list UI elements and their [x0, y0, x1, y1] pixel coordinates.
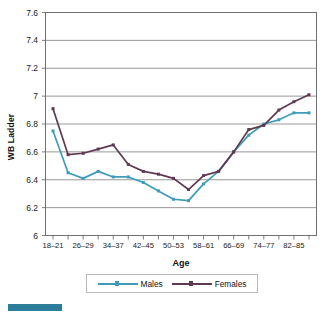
- legend-swatch-males: [98, 279, 138, 288]
- data-point-marker: [307, 111, 310, 114]
- legend-item-males: Males: [98, 279, 163, 289]
- data-point-marker: [142, 170, 145, 173]
- data-point-marker: [142, 181, 145, 184]
- legend-label-females: Females: [215, 279, 247, 289]
- series-line-males: [53, 113, 309, 201]
- data-series: [52, 93, 311, 202]
- data-point-marker: [52, 129, 55, 132]
- data-point-marker: [82, 152, 85, 155]
- x-tick-label: 42–45: [133, 241, 154, 250]
- data-point-marker: [202, 182, 205, 185]
- data-point-marker: [202, 174, 205, 177]
- data-point-marker: [262, 124, 265, 127]
- chart-figure: WB Ladder 66.26.46.66.877.27.47.6 18–212…: [0, 0, 328, 313]
- data-point-marker: [82, 177, 85, 180]
- data-point-marker: [157, 173, 160, 176]
- x-tick-label: 66–69: [223, 241, 244, 250]
- data-point-marker: [307, 93, 310, 96]
- data-point-marker: [127, 175, 130, 178]
- legend-item-females: Females: [172, 279, 247, 289]
- x-tick-label: 58–61: [193, 241, 214, 250]
- data-point-marker: [172, 177, 175, 180]
- data-point-marker: [292, 100, 295, 103]
- x-tick-label: 34–37: [103, 241, 124, 250]
- data-point-marker: [187, 199, 190, 202]
- data-point-marker: [292, 111, 295, 114]
- data-point-marker: [157, 189, 160, 192]
- data-point-marker: [247, 134, 250, 137]
- data-point-marker: [277, 109, 280, 112]
- x-tick-label: 82–85: [283, 241, 304, 250]
- legend-swatch-females: [172, 279, 212, 288]
- data-point-marker: [172, 198, 175, 201]
- x-tick-label: 50–53: [163, 241, 184, 250]
- data-point-marker: [67, 153, 70, 156]
- data-point-marker: [97, 170, 100, 173]
- x-tick-label: 18–21: [42, 241, 63, 250]
- data-point-marker: [247, 128, 250, 131]
- data-point-marker: [127, 163, 130, 166]
- data-point-marker: [67, 171, 70, 174]
- x-axis-ticks: [53, 236, 309, 240]
- legend-label-males: Males: [141, 279, 163, 289]
- decorative-corner-bar: [8, 304, 62, 311]
- data-point-marker: [232, 150, 235, 153]
- data-point-marker: [97, 148, 100, 151]
- x-tick-label: 26–29: [73, 241, 94, 250]
- x-tick-label: 74–77: [253, 241, 274, 250]
- grid-lines: [42, 13, 317, 236]
- data-point-marker: [187, 188, 190, 191]
- x-axis-label: Age: [45, 258, 317, 268]
- data-point-marker: [277, 118, 280, 121]
- data-point-marker: [217, 170, 220, 173]
- data-point-marker: [112, 175, 115, 178]
- data-point-marker: [112, 143, 115, 146]
- data-point-marker: [52, 107, 55, 110]
- chart-legend: Males Females: [86, 274, 258, 293]
